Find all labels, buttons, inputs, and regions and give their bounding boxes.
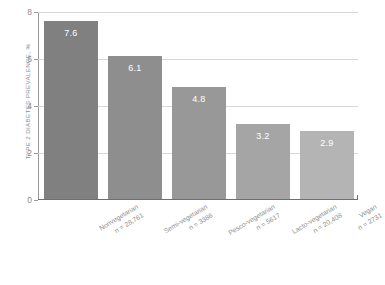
- y-axis-tick-label: 4: [27, 102, 32, 111]
- bar-value-label: 3.2: [236, 131, 291, 141]
- x-axis-line: [38, 199, 358, 200]
- category-label: Pesco-vegetariann = 5617: [227, 202, 282, 246]
- chart-figure: TYPE 2 DIABETES PREVALENCE, % 02468 7.66…: [0, 0, 385, 285]
- plot-area: 02468 7.66.14.83.22.9: [38, 12, 358, 200]
- y-axis-tick: [34, 200, 38, 201]
- y-axis-tick: [34, 59, 38, 60]
- category-label: Semi-vegetariann = 3386: [162, 202, 215, 244]
- bar[interactable]: 2.9: [300, 131, 355, 199]
- bar[interactable]: 7.6: [44, 21, 99, 199]
- y-axis-tick-label: 2: [27, 149, 32, 158]
- x-axis-end-tick: [357, 195, 358, 200]
- bar[interactable]: 6.1: [108, 56, 163, 199]
- bar-value-label: 4.8: [172, 94, 227, 104]
- category-label: Nonvegetariann = 28,761: [97, 202, 145, 242]
- y-axis-tick: [34, 153, 38, 154]
- y-axis-tick-label: 0: [27, 196, 32, 205]
- bar[interactable]: 4.8: [172, 87, 227, 199]
- y-axis-tick: [34, 12, 38, 13]
- category-label: Vegann = 2731: [351, 202, 384, 233]
- y-axis-tick-label: 8: [27, 8, 32, 17]
- bar[interactable]: 3.2: [236, 124, 291, 199]
- bars-group: 7.66.14.83.22.9: [39, 12, 358, 199]
- y-axis-tick: [34, 106, 38, 107]
- bar-value-label: 2.9: [300, 138, 355, 148]
- y-axis-tick-label: 6: [27, 55, 32, 64]
- category-labels-group: Nonvegetariann = 28,761Semi-vegetariann …: [38, 202, 358, 262]
- bar-value-label: 6.1: [108, 63, 163, 73]
- category-label: Lacto-vegetariann = 20,408: [290, 202, 344, 245]
- bar-value-label: 7.6: [44, 28, 99, 38]
